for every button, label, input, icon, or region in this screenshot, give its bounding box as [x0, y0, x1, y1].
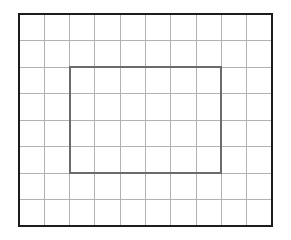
grid-figure-svg — [0, 0, 291, 240]
figure-canvas — [0, 0, 291, 240]
